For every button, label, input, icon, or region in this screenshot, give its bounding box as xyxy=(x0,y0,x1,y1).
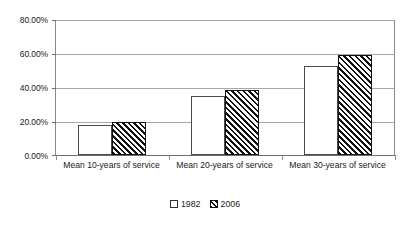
bar-1982-20-years[interactable] xyxy=(191,96,225,155)
bar-group-30-years xyxy=(282,20,395,155)
plot-area xyxy=(55,20,395,156)
y-tick-label: 80.00% xyxy=(2,16,48,25)
y-axis: 80.00% 60.00% 40.00% 20.00% 0.00% xyxy=(2,0,48,226)
legend-label-1982: 1982 xyxy=(181,199,201,209)
bar-1982-10-years[interactable] xyxy=(78,125,112,155)
bar-chart: 80.00% 60.00% 40.00% 20.00% 0.00% xyxy=(0,0,410,226)
x-tick-mark xyxy=(395,155,396,160)
legend-swatch-1982-icon xyxy=(170,200,178,208)
y-tick-label: 20.00% xyxy=(2,118,48,127)
y-tick-label: 40.00% xyxy=(2,84,48,93)
x-category-label-20-years: Mean 20-years of service xyxy=(168,160,281,171)
bar-2006-20-years[interactable] xyxy=(225,90,259,156)
bar-group-20-years xyxy=(169,20,282,155)
legend-entry-2006[interactable]: 2006 xyxy=(210,199,241,209)
bar-2006-30-years[interactable] xyxy=(338,55,372,155)
x-category-label-30-years: Mean 30-years of service xyxy=(281,160,394,171)
y-tick-label: 0.00% xyxy=(2,152,48,161)
legend: 1982 2006 xyxy=(0,199,410,209)
x-axis-labels: Mean 10-years of service Mean 20-years o… xyxy=(55,160,395,194)
y-tick-label: 60.00% xyxy=(2,50,48,59)
bar-group-10-years xyxy=(56,20,169,155)
legend-entry-1982[interactable]: 1982 xyxy=(170,199,201,209)
legend-swatch-2006-icon xyxy=(210,200,218,208)
bar-1982-30-years[interactable] xyxy=(304,66,338,155)
legend-label-2006: 2006 xyxy=(221,199,241,209)
x-category-label-10-years: Mean 10-years of service xyxy=(55,160,168,171)
bar-2006-10-years[interactable] xyxy=(112,122,146,155)
